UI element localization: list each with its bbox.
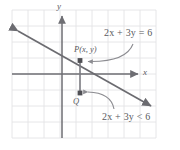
point-q-label: Q <box>73 97 79 106</box>
y-axis-label: y <box>57 2 61 11</box>
x-axis-label: x <box>143 68 147 77</box>
line-equation-label: 2x + 3y = 6 <box>104 28 152 38</box>
inequality-graph-figure: x y P(x, y) Q 2x + 3y = 6 2x + 3y < 6 <box>0 0 180 150</box>
point-p-marker <box>78 58 83 63</box>
region-inequality-label: 2x + 3y < 6 <box>102 112 150 122</box>
point-p-label: P(x, y) <box>74 45 97 54</box>
point-q-marker <box>78 91 83 96</box>
graph-canvas <box>0 0 180 150</box>
